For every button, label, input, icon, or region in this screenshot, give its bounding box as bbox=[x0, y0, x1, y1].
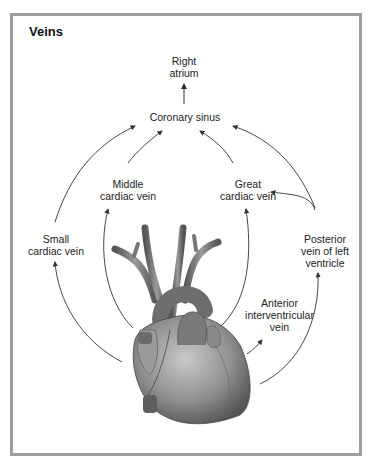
label-anterior-interventricular-vein: Anterior interventricular vein bbox=[232, 297, 327, 333]
label-coronary-sinus: Coronary sinus bbox=[140, 111, 230, 123]
arrow-small-to-sinus bbox=[55, 126, 135, 222]
arrow-middle-to-sinus bbox=[128, 131, 162, 163]
heart-illustration bbox=[115, 228, 250, 424]
label-right-atrium: Right atrium bbox=[164, 55, 204, 79]
arrow-great-to-sinus bbox=[200, 131, 233, 163]
arrow-heart-to-middle bbox=[104, 209, 133, 328]
arrow-heart-to-small bbox=[55, 262, 122, 362]
arrow-heart-to-anterior bbox=[247, 340, 262, 354]
label-posterior-vein-left-ventricle: Posterior vein of left ventricle bbox=[290, 233, 360, 269]
label-great-cardiac-vein: Great cardiac vein bbox=[208, 178, 288, 202]
label-middle-cardiac-vein: Middle cardiac vein bbox=[88, 178, 168, 202]
label-small-cardiac-vein: Small cardiac vein bbox=[16, 233, 96, 257]
